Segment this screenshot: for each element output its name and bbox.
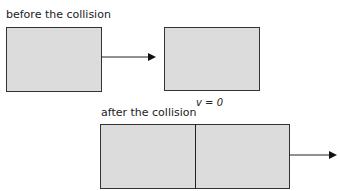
- velocity-zero-label: v = 0: [196, 97, 223, 108]
- after-velocity-arrow-icon: [289, 150, 339, 160]
- before-right-block: [164, 27, 260, 91]
- block-divider: [195, 124, 197, 189]
- before-left-block: [6, 27, 102, 92]
- before-collision-label: before the collision: [6, 9, 111, 21]
- before-velocity-arrow-icon: [101, 52, 157, 62]
- after-collision-label: after the collision: [101, 107, 197, 119]
